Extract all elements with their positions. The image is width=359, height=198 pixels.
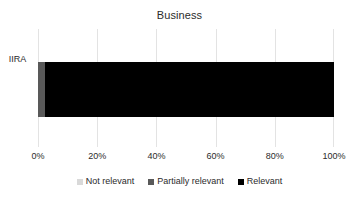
legend-swatch-partially-relevant bbox=[148, 179, 154, 185]
y-axis-category-label-iira: IIRA bbox=[0, 53, 35, 65]
x-tick-label-80: 80% bbox=[266, 150, 284, 162]
x-tick-label-40: 40% bbox=[147, 150, 165, 162]
chart-title: Business bbox=[0, 8, 359, 22]
legend-swatch-not-relevant bbox=[77, 179, 83, 185]
x-axis-tick-labels: 0%20%40%60%80%100% bbox=[38, 150, 334, 164]
bar-segment-partially-relevant bbox=[38, 62, 45, 117]
legend-label-relevant: Relevant bbox=[247, 176, 283, 187]
legend-item-not-relevant[interactable]: Not relevant bbox=[77, 176, 135, 187]
legend-label-not-relevant: Not relevant bbox=[86, 176, 135, 187]
legend-swatch-relevant bbox=[238, 179, 244, 185]
legend-item-partially-relevant[interactable]: Partially relevant bbox=[148, 176, 224, 187]
bar-segment-relevant bbox=[45, 62, 334, 117]
plot-area bbox=[38, 29, 334, 147]
chart-container: Business IIRA 0%20%40%60%80%100% Not rel… bbox=[0, 0, 359, 198]
chart-legend: Not relevantPartially relevantRelevant bbox=[0, 176, 359, 187]
x-tick-label-100: 100% bbox=[322, 150, 345, 162]
legend-item-relevant[interactable]: Relevant bbox=[238, 176, 283, 187]
stacked-bar-iira bbox=[38, 62, 334, 117]
x-tick-label-20: 20% bbox=[88, 150, 106, 162]
x-tick-label-60: 60% bbox=[207, 150, 225, 162]
legend-label-partially-relevant: Partially relevant bbox=[157, 176, 224, 187]
x-tick-label-0: 0% bbox=[31, 150, 44, 162]
